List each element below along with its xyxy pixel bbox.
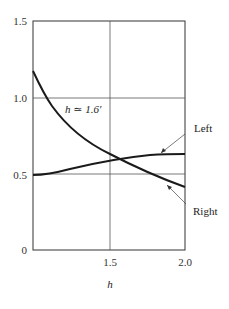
y-tick-0.5: 0.5: [13, 169, 27, 181]
x-tick-1.5: 1.5: [103, 256, 117, 268]
label-left: Left: [194, 122, 212, 134]
arrowhead-left: [161, 148, 166, 153]
crossing-annotation: h ≃ 1.6′: [65, 103, 102, 115]
y-tick-0: 0: [22, 244, 28, 256]
plot-frame: [33, 21, 185, 250]
label-right: Right: [193, 205, 217, 217]
series-left-line: [33, 154, 185, 175]
series-right-line: [33, 71, 185, 187]
x-axis-label: h: [107, 278, 113, 290]
x-tick-2.0: 2.0: [178, 256, 192, 268]
y-tick-1.5: 1.5: [13, 15, 27, 27]
chart-canvas: 1.5 1.0 0.5 0 1.5 2.0 h h ≃ 1.6′ Left Ri…: [0, 0, 229, 309]
y-tick-1.0: 1.0: [13, 92, 27, 104]
